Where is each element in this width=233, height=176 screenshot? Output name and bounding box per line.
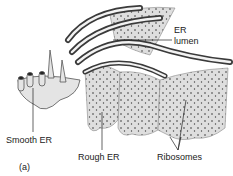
panel-label: (a) [19,162,30,172]
label-er-lumen-line2: lumen [174,36,199,46]
label-smooth-er: Smooth ER [6,135,52,145]
er-cisternae [68,8,230,76]
er-illustration [0,0,233,176]
er-diagram: ER lumen Smooth ER Rough ER Ribosomes (a… [0,0,233,176]
label-ribosomes: Ribosomes [157,152,202,162]
label-er-lumen-line1: ER [174,25,187,35]
label-rough-er: Rough ER [78,152,120,162]
smooth-er-tubules [18,50,80,109]
